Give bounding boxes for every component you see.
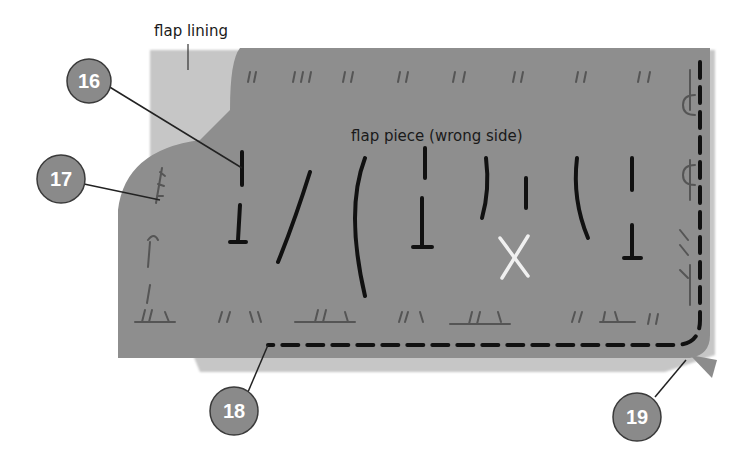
flap-piece-label: flap piece (wrong side): [351, 127, 523, 145]
flap-diagram: flap lining flap piece (wrong side) 16 1…: [0, 0, 751, 474]
callout-18: 18: [210, 387, 258, 435]
flap-lining-label: flap lining: [154, 22, 228, 40]
svg-text:17: 17: [50, 168, 72, 190]
svg-text:19: 19: [626, 406, 648, 428]
callout-19: 19: [613, 393, 661, 441]
svg-text:16: 16: [78, 70, 100, 92]
lining-corner-tip: [690, 355, 717, 378]
callout-16: 16: [67, 59, 111, 103]
callout-17: 17: [37, 155, 85, 203]
svg-text:18: 18: [223, 400, 245, 422]
